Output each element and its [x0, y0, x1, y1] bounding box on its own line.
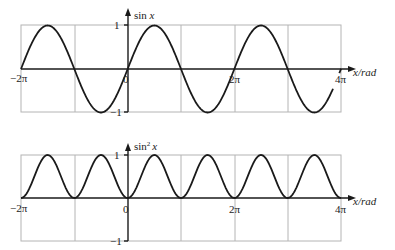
sin2-ytick-1-label: 1: [114, 149, 120, 161]
sin-ytick-m1-label: −1: [110, 106, 122, 118]
sin2-xtick-4pi-label: 4π: [335, 203, 347, 215]
sin-xlabel: x/rad: [352, 66, 377, 78]
sin2-xtick-m2pi-label: −2π: [10, 202, 28, 214]
sin2-xlabel: x/rad: [352, 195, 377, 207]
sin-ylabel: sin x: [134, 9, 155, 21]
sin-xtick-2pi-label: 2π: [229, 73, 241, 85]
sin2-ytick-m1-label: −1: [110, 235, 122, 247]
sin2-xtick-0-label: 0: [123, 203, 129, 215]
chart-canvas: sin x 1 −1 −2π 0 2π 4π x/rad sin2x 1 −1 …: [0, 0, 395, 250]
sin2-chart: sin2x 1 −1 −2π 0 2π 4π x/rad: [10, 140, 377, 247]
sin-y-axis-arrow-icon: [125, 8, 131, 16]
sin2-xtick-2pi-label: 2π: [229, 203, 241, 215]
sin-ytick-1-label: 1: [114, 19, 120, 31]
sin-xtick-m2pi-label: −2π: [10, 72, 28, 84]
sin2-y-axis-arrow-icon: [125, 143, 131, 151]
sin-xtick-0-label: 0: [123, 73, 129, 85]
sin2-ylabel: sin2x: [134, 140, 157, 152]
sin-chart: sin x 1 −1 −2π 0 2π 4π x/rad: [10, 8, 377, 118]
sin-xtick-4pi-label: 4π: [335, 73, 347, 85]
